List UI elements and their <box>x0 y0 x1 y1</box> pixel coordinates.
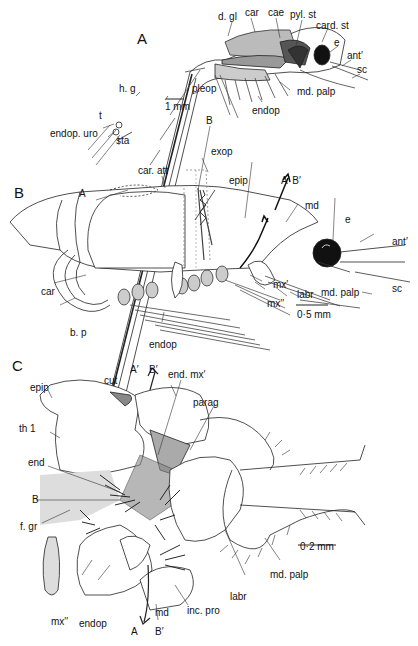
label-mx2: mx′′ <box>267 299 284 309</box>
label-parag: parag <box>193 398 219 408</box>
label-e: e <box>345 215 351 225</box>
label-car-att: car. att <box>138 166 168 176</box>
label-b1: B′ <box>149 365 158 375</box>
label-b-arrow: B <box>206 116 213 126</box>
label-md: md <box>305 201 319 211</box>
label-f-gr: f. gr <box>20 522 37 532</box>
label-end-mx: end. mx′ <box>168 370 205 380</box>
label-epip: epip <box>229 176 248 186</box>
label-e: e <box>334 38 340 48</box>
scale-bar-a: 1 mm <box>165 102 190 112</box>
label-pleop: pleop <box>192 84 216 94</box>
label-sc: sc <box>357 65 367 75</box>
label-a1: A′ <box>130 365 139 375</box>
label-h-g: h. g <box>119 84 136 94</box>
label-endop: endop <box>252 106 280 116</box>
label-md: md <box>155 608 169 618</box>
label-car: car <box>41 287 55 297</box>
panel-c-label: C <box>12 358 23 373</box>
label-labr: labr <box>297 290 314 300</box>
label-b2: B′ <box>155 627 164 637</box>
label-d-gl: d. gl <box>218 12 237 22</box>
label-exop: exop <box>211 147 233 157</box>
label-car: car <box>245 8 259 18</box>
label-endop-uro: endop. uro <box>50 129 98 139</box>
panel-a-label: A <box>137 31 147 46</box>
label-mx1: mx′ <box>273 280 288 290</box>
label-md-palp: md. palp <box>297 87 335 97</box>
scale-bar-c: 0·2 mm <box>300 542 334 552</box>
label-md-palp: md. palp <box>270 570 308 580</box>
label-endop: endop <box>79 619 107 629</box>
label-endop: endop <box>149 340 177 350</box>
scale-bar-b: 0·5 mm <box>297 310 331 320</box>
label-a-arrow: A <box>79 189 86 199</box>
label-th1: th 1 <box>19 424 36 434</box>
anatomical-drawing <box>0 0 418 646</box>
label-b-p: b. p <box>70 328 87 338</box>
label-mx2: mx′′ <box>51 617 68 627</box>
label-card-st: card. st <box>316 21 349 31</box>
label-labr: labr <box>230 592 247 602</box>
label-ant: ant′ <box>347 51 363 61</box>
label-md-palp: md. palp <box>321 288 359 298</box>
label-sc: sc <box>392 284 402 294</box>
label-a-arrow: A <box>131 627 138 637</box>
label-end: end <box>28 458 45 468</box>
label-b-arrow: B <box>32 495 39 505</box>
panel-b-drawing <box>10 170 410 350</box>
label-cae: cae <box>268 8 284 18</box>
label-epip: epip <box>30 383 49 393</box>
label-inc-pro: inc. pro <box>187 606 220 616</box>
label-t: t <box>99 111 102 121</box>
panel-b-label: B <box>14 185 24 200</box>
label-ab-arrow: A′ B′ <box>281 176 301 186</box>
label-sta: sta <box>116 136 129 146</box>
label-pyl-st: pyl. st <box>290 10 316 20</box>
label-ant: ant′ <box>392 237 408 247</box>
label-cut: cut <box>104 376 117 386</box>
